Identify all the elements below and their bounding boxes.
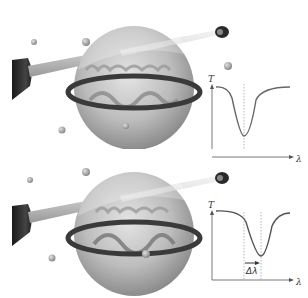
shift-label: Δλ bbox=[245, 266, 257, 276]
fiber-end bbox=[215, 172, 229, 184]
resonator-illustration-top: T bbox=[0, 0, 308, 149]
y-axis-label: T bbox=[208, 200, 215, 210]
fiber-holder bbox=[12, 204, 32, 246]
transmission-curve bbox=[216, 211, 290, 256]
transmission-plot-top: T bbox=[208, 74, 290, 149]
resonator-illustration-bottom: λ bbox=[0, 149, 308, 298]
bound-particle bbox=[142, 250, 150, 258]
panel-top: T bbox=[0, 0, 308, 149]
microsphere bbox=[74, 16, 194, 149]
panel-bottom: λ bbox=[0, 149, 308, 298]
transmission-curve bbox=[216, 87, 290, 136]
x-axis-label: λ bbox=[295, 154, 302, 164]
fiber-holder bbox=[12, 58, 32, 100]
transmission-plot-top-xaxis: λ bbox=[212, 154, 302, 164]
transmission-plot-bottom: Δλ T λ bbox=[208, 200, 302, 287]
microsphere bbox=[74, 162, 194, 296]
fiber-end bbox=[215, 26, 229, 38]
y-axis-label: T bbox=[208, 74, 215, 84]
x-axis-label: λ bbox=[295, 277, 302, 287]
